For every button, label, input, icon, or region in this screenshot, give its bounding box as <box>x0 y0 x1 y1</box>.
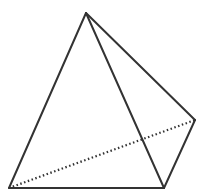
edge-apex-bottom-left <box>9 13 86 188</box>
hidden-edge-bottom-left-right <box>9 120 195 188</box>
edge-apex-right <box>86 13 195 120</box>
edge-bottom-right-right <box>164 120 195 188</box>
pyramid-diagram <box>0 0 204 195</box>
edge-apex-bottom-right <box>86 13 164 188</box>
